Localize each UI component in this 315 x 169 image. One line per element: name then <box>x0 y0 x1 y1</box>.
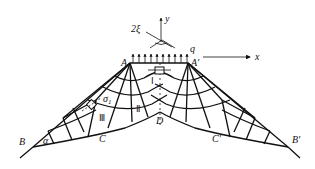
label-a-prime: A' <box>190 57 200 68</box>
label-region-2: Ⅱ <box>136 104 140 114</box>
label-sigma1: σ1 <box>103 93 111 106</box>
label-region-3: Ⅲ <box>99 113 105 123</box>
label-d: D <box>155 115 164 126</box>
load-arrows <box>133 54 187 63</box>
label-x-axis: x <box>254 51 260 62</box>
label-q: q <box>190 43 195 54</box>
label-c-prime: C' <box>212 133 222 144</box>
y-axis <box>146 18 175 48</box>
label-c: C <box>99 133 106 144</box>
slip-line-diagram: A A' B B' C C' D q x y 2ξ α σ1 Ⅰ Ⅱ Ⅲ <box>0 0 315 169</box>
label-y-axis: y <box>164 13 170 24</box>
label-two-xi: 2ξ <box>131 23 141 35</box>
label-alpha: α <box>43 135 49 146</box>
label-region-1: Ⅰ <box>151 76 154 86</box>
label-b: B <box>19 136 25 147</box>
label-b-prime: B' <box>292 134 301 145</box>
right-slip-field <box>151 63 300 158</box>
label-a: A <box>120 57 128 68</box>
